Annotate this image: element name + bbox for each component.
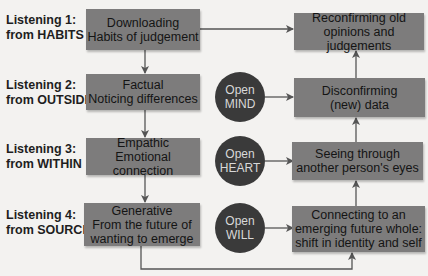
box-text: Habits of judgement (87, 30, 198, 44)
level-label-outside: Listening 2: from OUTSIDE (6, 78, 93, 108)
box-text: Factual (123, 78, 164, 92)
circle-text: Open (225, 147, 254, 161)
box-text: wanting to emerge (91, 232, 194, 246)
circle-text: MIND (225, 97, 256, 111)
label-line: from OUTSIDE (6, 93, 93, 108)
circle-open-heart: Open HEART (215, 136, 265, 186)
level-label-source: Listening 4: from SOURCE (6, 208, 91, 238)
box-text: Disconfirming (322, 84, 398, 98)
label-line: from HABITS (6, 28, 84, 43)
level-label-within: Listening 3: from WITHIN (6, 142, 82, 172)
box-generative: Generative From the future of wanting to… (84, 203, 200, 246)
box-downloading: Downloading Habits of judgement (86, 9, 200, 50)
circle-text: Open (225, 83, 254, 97)
box-seeing-through: Seeing through another person's eyes (292, 142, 423, 180)
box-text: Generative (111, 204, 172, 218)
box-text: Empathic (117, 136, 169, 150)
circle-text: HEART (220, 161, 260, 175)
label-line: Listening 1: (6, 13, 84, 28)
box-text: Downloading (107, 16, 179, 30)
box-text: Emotional connection (86, 150, 200, 178)
box-text: (new) data (330, 98, 389, 112)
label-line: Listening 4: (6, 208, 91, 223)
box-text: From the future of (92, 218, 191, 232)
circle-open-mind: Open MIND (215, 72, 265, 122)
box-connecting: Connecting to an emerging future whole: … (292, 206, 425, 252)
box-text: shift in identity and self (295, 236, 421, 250)
box-empathic: Empathic Emotional connection (86, 138, 200, 175)
label-line: from SOURCE (6, 223, 91, 238)
box-text: opinions and judgements (294, 25, 424, 53)
box-text: Noticing differences (88, 92, 198, 106)
label-line: Listening 3: (6, 142, 82, 157)
level-label-habits: Listening 1: from HABITS (6, 13, 84, 43)
circle-text: WILL (226, 228, 254, 242)
circle-open-will: Open WILL (215, 203, 265, 253)
box-text: Seeing through (315, 147, 400, 161)
box-disconfirming: Disconfirming (new) data (294, 78, 425, 117)
box-factual: Factual Noticing differences (86, 74, 200, 110)
box-text: emerging future whole: (295, 222, 422, 236)
box-reconfirming: Reconfirming old opinions and judgements (294, 13, 424, 50)
label-line: from WITHIN (6, 157, 82, 172)
box-text: another person's eyes (296, 161, 419, 175)
box-text: Reconfirming old (312, 11, 406, 25)
box-text: Connecting to an (311, 208, 406, 222)
circle-text: Open (225, 214, 254, 228)
label-line: Listening 2: (6, 78, 93, 93)
